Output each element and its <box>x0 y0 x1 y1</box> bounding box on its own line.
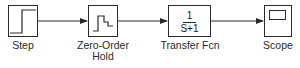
staircase-signal-icon <box>89 6 117 36</box>
tf-denominator: S+1 <box>169 24 210 34</box>
scope-block[interactable] <box>264 5 292 37</box>
scope-label: Scope <box>256 40 300 51</box>
scope-screen-icon <box>269 10 286 20</box>
step-label-text: Step <box>12 39 34 51</box>
scope-label-text: Scope <box>263 39 293 51</box>
zero-order-hold-block[interactable] <box>88 5 118 37</box>
transfer-fcn-block[interactable]: 1 S+1 <box>168 5 211 37</box>
transfer-fcn-label: Transfer Fcn <box>159 40 221 51</box>
step-signal-icon <box>9 6 37 36</box>
zoh-label-line-2: Hold <box>73 51 133 62</box>
tf-numerator: 1 <box>169 11 210 21</box>
step-label: Step <box>3 40 43 51</box>
zero-order-hold-label: Zero-Order Hold <box>73 40 133 62</box>
step-block[interactable] <box>8 5 38 37</box>
signal-lines <box>0 0 300 68</box>
tf-label-text: Transfer Fcn <box>160 39 219 51</box>
